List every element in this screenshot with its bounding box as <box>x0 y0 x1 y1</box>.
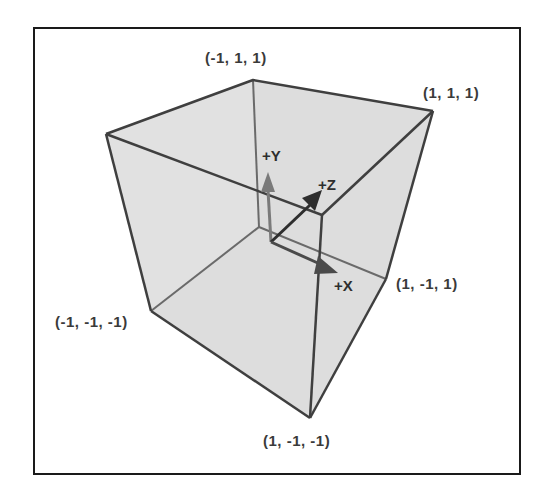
vertex-label-back-top-left: (-1, 1, 1) <box>205 49 267 66</box>
vertex-label-left-bottom: (-1, -1, -1) <box>55 313 128 330</box>
axis-label-x: +X <box>334 277 353 294</box>
cube-diagram <box>0 0 547 500</box>
axis-label-y: +Y <box>262 147 281 164</box>
vertex-label-right-mid: (1, -1, 1) <box>396 275 458 292</box>
axis-label-z: +Z <box>318 176 336 193</box>
vertex-label-top-right: (1, 1, 1) <box>423 84 479 101</box>
vertex-label-front-bottom: (1, -1, -1) <box>263 432 330 449</box>
